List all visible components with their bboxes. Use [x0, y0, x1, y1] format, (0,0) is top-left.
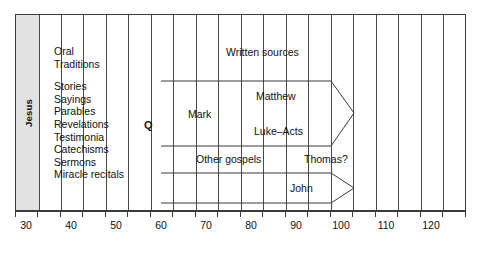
- axis-tick-55: [127, 211, 128, 217]
- axis-tick-120: [420, 211, 421, 217]
- x-axis: 30 40 50 60 70 80 90 100 110 120: [15, 211, 466, 241]
- axis-tick-80: [240, 211, 241, 217]
- axis-tick-100: [330, 211, 331, 217]
- axis-tick-85: [262, 211, 263, 217]
- axis-tick-65: [172, 211, 173, 217]
- written-sources-label: Written sources: [226, 46, 299, 58]
- axis-tick-105: [352, 211, 353, 217]
- axis-label-60: 60: [155, 219, 167, 231]
- luke-acts-label: Luke–Acts: [254, 125, 303, 137]
- axis-label-40: 40: [65, 219, 77, 231]
- axis-label-110: 110: [378, 219, 395, 231]
- axis-label-100: 100: [332, 219, 350, 231]
- john-label: John: [290, 182, 313, 194]
- mark-label: Mark: [188, 108, 211, 120]
- axis-label-70: 70: [200, 219, 212, 231]
- axis-label-80: 80: [245, 219, 257, 231]
- axis-tick-110: [375, 211, 376, 217]
- axis-tick-50: [105, 211, 106, 217]
- axis-tick-125: [442, 211, 443, 217]
- axis-label-30: 30: [20, 219, 32, 231]
- axis-tick-90: [285, 211, 286, 217]
- john-arrow-shape: [161, 173, 354, 203]
- axis-tick-95: [307, 211, 308, 217]
- axis-label-90: 90: [290, 219, 302, 231]
- axis-tick-end: [465, 211, 466, 217]
- axis-tick-45: [82, 211, 83, 217]
- axis-tick-35: [37, 211, 38, 217]
- matthew-label: Matthew: [256, 90, 296, 102]
- axis-tick-27: [15, 211, 16, 217]
- thomas-label: Thomas?: [304, 153, 348, 165]
- axis-tick-40: [60, 211, 61, 217]
- plot-frame: Jesus Oral Traditions Stories Sayings Pa…: [15, 14, 466, 211]
- axis-tick-115: [397, 211, 398, 217]
- axis-tick-60: [150, 211, 151, 217]
- axis-label-120: 120: [422, 219, 440, 231]
- axis-label-50: 50: [110, 219, 122, 231]
- timeline-diagram: Jesus Oral Traditions Stories Sayings Pa…: [0, 0, 481, 253]
- other-gospels-label: Other gospels: [196, 153, 261, 165]
- axis-tick-75: [217, 211, 218, 217]
- axis-tick-70: [195, 211, 196, 217]
- source-arrow-shapes: [16, 15, 467, 212]
